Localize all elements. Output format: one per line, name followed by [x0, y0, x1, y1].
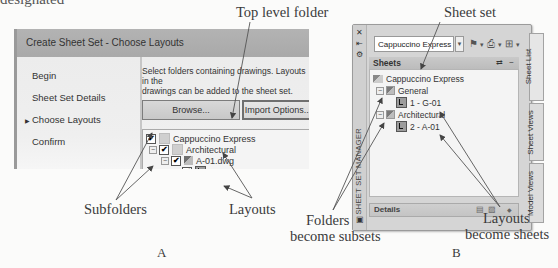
collapse-icon[interactable]: − — [149, 146, 157, 154]
import-options-button[interactable]: Import Options... — [242, 100, 309, 120]
sheet-node-a01[interactable]: 2 - A-01 — [396, 121, 440, 132]
chevron-down-icon[interactable]: ▾ — [480, 41, 484, 49]
figure-label-b: B — [452, 245, 461, 261]
callout-layouts-become-sheets-1: Layouts — [483, 210, 530, 227]
callout-sheet-set: Sheet set — [444, 4, 496, 21]
sheet-set-dropdown[interactable]: Cappuccino Express — [374, 36, 454, 52]
callout-layouts-become-sheets-2: become sheets — [465, 226, 549, 243]
tree-node-a01-layout[interactable]: ✔ A-01 — [182, 166, 228, 169]
sheet-set-icon — [373, 75, 383, 83]
palette-title-strip: ✕ ⇤ ⚙ SHEET SET MANAGER ▣ — [353, 25, 367, 230]
tab-sheet-views[interactable]: Sheet Views — [529, 103, 544, 161]
arrow-layouts-2 — [224, 186, 252, 198]
figure-label-a: A — [157, 245, 166, 261]
tree-node-label: 2 - A-01 — [410, 122, 440, 132]
callout-folders-become-subsets-1: Folders — [306, 212, 350, 229]
callout-top-level-folder: Top level folder — [236, 4, 328, 21]
tree-node-root[interactable]: ✔ Cappuccino Express — [146, 133, 256, 144]
chevron-down-icon[interactable]: ▾ — [516, 41, 520, 49]
palette-title: SHEET SET MANAGER — [354, 115, 363, 215]
tree-node-label: A-01.dwg — [196, 156, 234, 166]
sheet-icon — [396, 97, 407, 108]
sheet-set-node[interactable]: Cappuccino Express — [373, 73, 464, 84]
tab-label: Sheet Views — [526, 110, 535, 154]
folder-icon — [159, 133, 170, 144]
dialog-body: Begin Sheet Set Details Choose Layouts C… — [17, 57, 309, 169]
layout-icon — [195, 166, 206, 169]
refresh-icon[interactable]: ⇄ — [496, 57, 503, 69]
collapse-icon[interactable]: − — [509, 57, 514, 69]
folder-tree: ✔ Cappuccino Express − ✔ Architectural −… — [142, 129, 309, 169]
instructions: Select folders containing drawings. Layo… — [142, 66, 309, 96]
sheet-selections-icon[interactable]: ⊞ — [505, 38, 513, 49]
callout-folders-become-subsets-2: become subsets — [290, 228, 381, 245]
publish-icon[interactable]: ⚑ — [469, 38, 478, 49]
subset-node-architectural[interactable]: − Architectural — [376, 109, 445, 120]
wizard-steps: Begin Sheet Set Details Choose Layouts C… — [32, 67, 105, 155]
sheets-tree: Cappuccino Express − General 1 - G-01 − … — [369, 69, 519, 197]
browse-button[interactable]: Browse... — [142, 100, 240, 120]
sheet-set-icon: ▣ — [355, 215, 364, 224]
tab-sheet-list[interactable]: Sheet List — [529, 33, 544, 101]
callout-layouts: Layouts — [229, 201, 276, 218]
cropped-page-text: designated — [0, 0, 64, 8]
tree-node-label: General — [398, 86, 428, 96]
plot-icon[interactable]: ⎙ — [487, 38, 495, 50]
tree-node-label: Architectural — [186, 145, 236, 155]
collapse-icon[interactable]: − — [376, 111, 384, 119]
dialog-title: Create Sheet Set - Choose Layouts — [17, 29, 309, 57]
collapse-icon[interactable]: − — [161, 157, 169, 165]
auto-hide-icon[interactable]: ⇤ — [355, 39, 364, 48]
checkbox-checked-icon[interactable]: ✔ — [159, 145, 169, 155]
checkbox-checked-icon[interactable]: ✔ — [171, 156, 181, 166]
tree-node-label: Architectural — [398, 110, 445, 120]
subset-icon — [386, 86, 395, 95]
tree-node-architectural[interactable]: − ✔ Architectural — [149, 144, 236, 155]
tree-node-label: Cappuccino Express — [386, 74, 464, 84]
tree-node-label: A-01 — [209, 167, 228, 170]
instructions-line-1: Select folders containing drawings. Layo… — [142, 66, 309, 86]
arrow-subfolders-2 — [116, 166, 153, 200]
close-icon[interactable]: ✕ — [355, 28, 364, 37]
callout-subfolders: Subfolders — [84, 201, 147, 218]
wizard-step-sheet-set-details[interactable]: Sheet Set Details — [32, 89, 105, 111]
collapse-icon[interactable]: − — [376, 87, 384, 95]
sheet-set-manager-panel: ✕ ⇤ ⚙ SHEET SET MANAGER ▣ Cappuccino Exp… — [352, 24, 532, 231]
sheets-header-label: Sheets — [373, 58, 401, 68]
wizard-step-choose-layouts[interactable]: Choose Layouts — [32, 111, 105, 133]
subset-node-general[interactable]: − General — [376, 85, 428, 96]
details-label: Details — [374, 205, 400, 214]
chevron-down-icon[interactable]: ▾ — [498, 41, 502, 49]
sheet-node-g01[interactable]: 1 - G-01 — [396, 97, 441, 108]
checkbox-checked-icon[interactable]: ✔ — [182, 167, 192, 170]
properties-icon[interactable]: ⚙ — [355, 50, 364, 59]
tab-label: Sheet List — [524, 49, 533, 85]
drawing-file-icon — [184, 156, 193, 165]
wizard-step-confirm[interactable]: Confirm — [32, 133, 105, 155]
subset-icon — [386, 110, 395, 119]
sheet-icon — [396, 121, 407, 132]
sheets-header: Sheets ⇄ − — [369, 57, 519, 69]
instructions-line-2: drawings can be added to the sheet set. — [142, 86, 309, 96]
chevron-down-icon[interactable]: ▼ — [455, 36, 464, 52]
tree-node-a01-dwg[interactable]: − ✔ A-01.dwg — [161, 155, 234, 166]
checkbox-checked-icon[interactable]: ✔ — [146, 134, 156, 144]
folder-icon — [172, 144, 183, 155]
tab-model-views[interactable]: Model Views — [529, 163, 544, 223]
create-sheet-set-dialog: Create Sheet Set - Choose Layouts Begin … — [14, 29, 309, 169]
wizard-step-begin[interactable]: Begin — [32, 67, 105, 89]
tree-node-label: 1 - G-01 — [410, 98, 441, 108]
tree-node-label: Cappuccino Express — [173, 134, 256, 144]
